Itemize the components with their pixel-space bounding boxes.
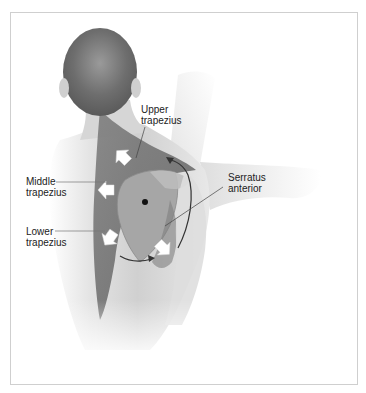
label-lower-trapezius: Lower trapezius (26, 226, 67, 248)
left-ear (59, 78, 69, 98)
head (63, 28, 137, 116)
right-ear (131, 78, 141, 98)
scapula-marker-dot (142, 199, 148, 205)
label-upper-trapezius: Upper trapezius (141, 104, 182, 126)
label-middle-trapezius: Middle trapezius (26, 176, 67, 198)
label-serratus-anterior: Serratus anterior (228, 172, 266, 194)
